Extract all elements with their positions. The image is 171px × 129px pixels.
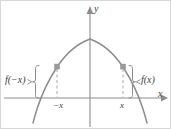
y-axis-arrow-icon xyxy=(87,6,94,14)
even-function-figure: y x −x x f(−x) f(x) xyxy=(0,0,171,129)
y-axis-label: y xyxy=(94,4,98,14)
plot-canvas xyxy=(1,1,171,129)
marker-f-x xyxy=(120,64,126,70)
marker-f-neg-x xyxy=(54,64,60,70)
tick-label-negative-x: −x xyxy=(53,101,63,110)
brace-label-f-of-negative-x: f(−x) xyxy=(5,75,26,85)
brace-left-connector xyxy=(28,80,32,85)
brace-label-f-of-x: f(x) xyxy=(141,75,155,85)
brace-right-connector xyxy=(136,80,140,85)
brace-left xyxy=(33,66,40,99)
tick-label-positive-x: x xyxy=(120,101,124,110)
y-axis xyxy=(87,6,94,127)
x-axis xyxy=(4,95,168,102)
x-axis-label: x xyxy=(158,89,162,99)
